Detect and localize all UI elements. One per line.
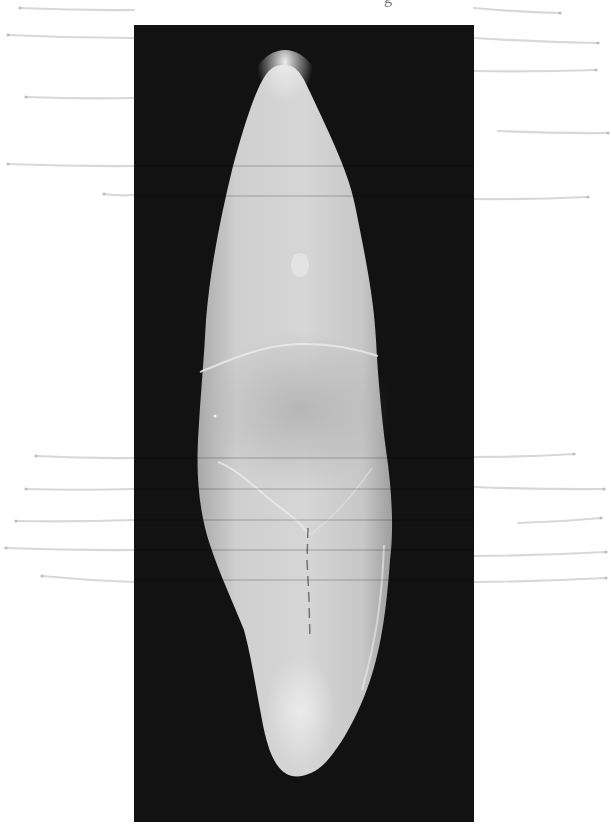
- leader-dot-right-8: [599, 516, 602, 519]
- leader-dot-left-8: [14, 519, 17, 522]
- leader-dot-right-6: [572, 452, 575, 455]
- leader-line-right-3: [474, 70, 596, 71]
- leader-dot-right-9: [604, 550, 607, 553]
- leader-line-left-5: [104, 194, 134, 195]
- leader-line-right-10: [474, 578, 606, 582]
- leader-dot-right-3: [594, 68, 597, 71]
- leader-dot-left-6: [34, 454, 37, 457]
- leader-line-right-6: [474, 454, 574, 457]
- leader-dot-left-4: [6, 162, 9, 165]
- leader-dot-left-10: [40, 574, 43, 577]
- leader-line-left-7: [26, 489, 134, 490]
- leader-dot-right-5: [586, 195, 589, 198]
- leader-line-right-1: [474, 8, 560, 13]
- leader-line-right-2: [474, 38, 598, 43]
- leader-dot-right-7: [602, 487, 605, 490]
- leader-dot-right-2: [596, 41, 599, 44]
- leader-dot-left-1: [18, 6, 21, 9]
- leader-line-right-8: [518, 518, 601, 523]
- leader-line-left-1: [20, 8, 134, 10]
- leader-line-left-2: [8, 35, 134, 38]
- leader-line-left-8: [16, 520, 134, 521]
- leader-line-left-4: [8, 164, 134, 166]
- leader-dot-right-4: [606, 131, 609, 134]
- leader-line-left-3: [26, 97, 134, 98]
- leader-dot-left-7: [24, 487, 27, 490]
- leader-dot-left-9: [4, 546, 7, 549]
- leader-dot-left-2: [6, 33, 9, 36]
- leader-line-left-10: [42, 576, 134, 582]
- tooth-photograph: [134, 25, 474, 822]
- leader-dot-left-3: [24, 95, 27, 98]
- leader-line-left-6: [36, 456, 134, 458]
- leader-dot-left-5: [102, 192, 105, 195]
- leader-line-right-9: [474, 552, 606, 556]
- leader-dot-right-10: [604, 576, 607, 579]
- leader-dot-right-1: [558, 11, 561, 14]
- leader-line-left-9: [6, 548, 134, 550]
- tooth-specimen: [134, 25, 474, 822]
- leader-line-right-4: [498, 131, 608, 133]
- leader-line-right-7: [474, 487, 604, 489]
- leader-line-right-5: [474, 197, 588, 199]
